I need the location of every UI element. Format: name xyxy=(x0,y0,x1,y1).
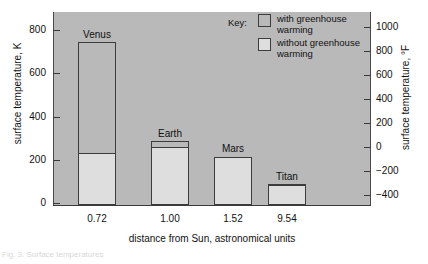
x-axis-tick-label: 1.00 xyxy=(145,213,195,224)
y-axis-tick-right xyxy=(364,171,371,172)
legend-title: Key: xyxy=(228,17,247,28)
legend-label-with-greenhouse: with greenhouse warming xyxy=(277,14,361,35)
chart-figure: 800 600 400 200 0 1000 800 600 400 200 0… xyxy=(0,0,428,264)
x-axis-line xyxy=(53,205,371,206)
y-axis-title-right: surface temperature, °F xyxy=(400,33,411,163)
y-axis-tick-right xyxy=(364,27,371,28)
plot-right-edge xyxy=(370,12,371,206)
y-axis-tick-label-right: 1000 xyxy=(376,22,416,32)
y-axis-tick-left xyxy=(53,203,60,204)
legend-label-line1: without greenhouse xyxy=(277,37,360,48)
plot-left-edge xyxy=(53,12,54,206)
bar-earth-without xyxy=(152,147,188,204)
y-axis-tick-right xyxy=(364,51,371,52)
y-axis-tick-right xyxy=(364,147,371,148)
with-greenhouse-swatch-icon xyxy=(258,14,271,27)
x-axis-tick-label: 0.72 xyxy=(72,213,122,224)
y-axis-title-left: surface temperature, K xyxy=(12,29,23,159)
x-axis-tick-label: 1.52 xyxy=(208,213,258,224)
legend-label-line2: warming xyxy=(277,48,313,59)
y-axis-tick-right xyxy=(364,99,371,100)
bar-label-titan: Titan xyxy=(252,171,322,182)
y-axis-tick-label-right: −200 xyxy=(376,166,416,176)
y-axis-tick-right xyxy=(364,195,371,196)
x-axis-tick-label: 9.54 xyxy=(262,213,312,224)
legend-label-without-greenhouse: without greenhouse warming xyxy=(277,38,361,59)
legend-label-line1: with greenhouse xyxy=(277,13,347,24)
y-axis-tick-label-right: −400 xyxy=(376,190,416,200)
y-axis-tick-right xyxy=(364,123,371,124)
legend-entry-without-greenhouse: without greenhouse warming xyxy=(258,38,361,59)
y-axis-tick-left xyxy=(53,160,60,161)
bar-label-mars: Mars xyxy=(198,143,268,154)
y-axis-tick-left xyxy=(53,73,60,74)
bar-label-earth: Earth xyxy=(135,128,205,139)
bar-venus xyxy=(78,42,116,205)
y-axis-tick-label-left: 0 xyxy=(12,198,46,208)
bar-titan-without xyxy=(269,185,305,204)
bar-mars xyxy=(214,157,252,205)
y-axis-tick-right xyxy=(364,75,371,76)
legend-label-line2: warming xyxy=(277,24,313,35)
bar-titan xyxy=(268,184,306,205)
bar-venus-without xyxy=(79,153,115,204)
legend-entry-with-greenhouse: with greenhouse warming xyxy=(258,14,361,35)
bar-mars-without xyxy=(215,157,251,204)
bar-label-venus: Venus xyxy=(62,29,132,40)
figure-caption: Fig. 3. Surface temperatures xyxy=(2,250,103,259)
without-greenhouse-swatch-icon xyxy=(258,38,271,51)
y-axis-tick-left xyxy=(53,30,60,31)
bar-earth xyxy=(151,141,189,205)
x-axis-title: distance from Sun, astronomical units xyxy=(53,233,371,244)
y-axis-tick-left xyxy=(53,117,60,118)
